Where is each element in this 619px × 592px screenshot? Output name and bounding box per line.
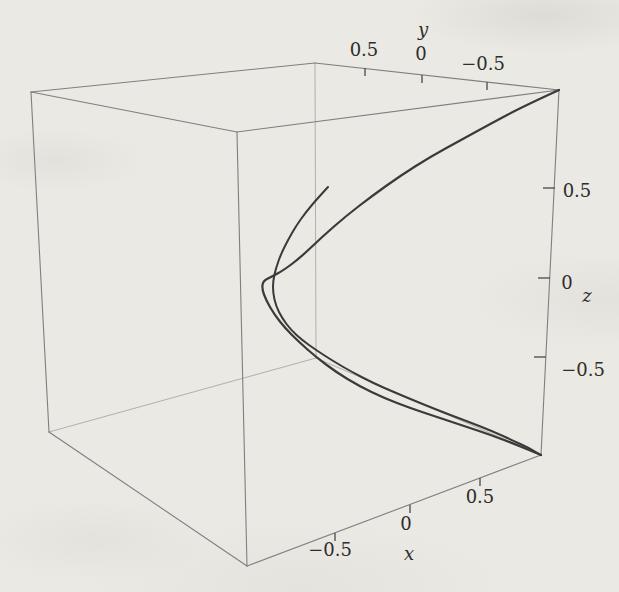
box-edge xyxy=(237,132,247,566)
z-axis-label: z xyxy=(581,285,592,306)
y-axis-label: y xyxy=(417,19,429,40)
z-axis-tick-label: 0 xyxy=(561,272,572,293)
z-axis-tick-label: −0.5 xyxy=(561,359,605,380)
box-edge xyxy=(315,63,559,90)
box-edge xyxy=(247,455,541,566)
scanned-figure-page: −0.500.5x0.50−0.5y0.50−0.5z xyxy=(0,0,619,592)
box-edge xyxy=(31,92,49,432)
curve-inner-strand xyxy=(273,187,541,455)
box-edge-hidden xyxy=(315,63,316,358)
y-axis-tick-label: −0.5 xyxy=(461,53,505,74)
x-axis-tick-label: −0.5 xyxy=(308,539,352,560)
box-edge xyxy=(237,90,559,132)
z-axis-tick-label: 0.5 xyxy=(563,180,592,201)
x-axis-tick-label: 0 xyxy=(400,513,411,534)
curve-outer-strand xyxy=(262,90,559,455)
y-axis-tick-label: 0 xyxy=(415,43,426,64)
x-axis-tick-label: 0.5 xyxy=(466,486,495,507)
box-edge xyxy=(31,92,237,132)
y-axis-tick-label: 0.5 xyxy=(350,39,379,60)
3d-parametric-plot: −0.500.5x0.50−0.5y0.50−0.5z xyxy=(0,0,619,592)
box-edge xyxy=(49,432,247,566)
box-edge xyxy=(31,63,315,92)
x-axis-label: x xyxy=(404,543,414,564)
box-edge-hidden xyxy=(49,358,316,432)
box-edge xyxy=(541,90,559,455)
